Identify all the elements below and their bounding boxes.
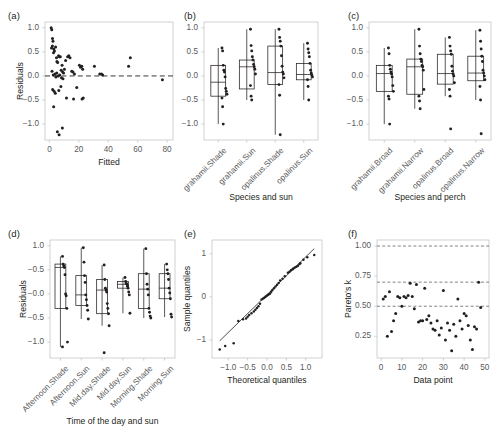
data-point [442, 289, 445, 292]
data-point [471, 348, 474, 351]
x-axis-title: Data point [343, 375, 503, 385]
data-point [454, 335, 457, 338]
data-point [465, 314, 468, 317]
data-point [446, 322, 449, 325]
data-point [448, 329, 451, 332]
multi-panel-figure: (a)1.00.50.0−0.5−1.0020406080FittedResid… [0, 0, 503, 438]
data-point [423, 287, 426, 290]
y-tick-label: 0.50 [335, 301, 371, 310]
data-point [458, 319, 461, 322]
panel-f-canvas [0, 0, 503, 438]
x-tick-label: 50 [469, 363, 501, 372]
data-point [475, 328, 478, 331]
data-point [429, 322, 432, 325]
data-point [469, 338, 472, 341]
data-point [425, 318, 428, 321]
data-point [473, 325, 476, 328]
data-point [411, 295, 414, 298]
data-point [407, 294, 410, 297]
data-point [386, 335, 389, 338]
data-point [438, 334, 441, 337]
data-point [427, 314, 430, 317]
data-point [450, 349, 453, 352]
data-point [388, 290, 391, 293]
y-tick-label: 0.75 [335, 271, 371, 280]
data-point [384, 295, 387, 298]
data-point [440, 326, 443, 329]
data-point [467, 324, 470, 327]
y-tick-label: 0.25 [335, 331, 371, 340]
data-point [463, 312, 466, 315]
data-point [390, 330, 393, 333]
data-point [456, 298, 459, 301]
data-point [477, 281, 480, 284]
data-point [436, 319, 439, 322]
data-point [421, 319, 424, 322]
data-point [444, 338, 447, 341]
data-point [479, 306, 482, 309]
data-point [434, 329, 437, 332]
data-point [392, 319, 395, 322]
data-point [415, 283, 418, 286]
data-point [382, 298, 385, 301]
y-axis-title: Pareto's k [343, 249, 353, 349]
data-point [394, 312, 397, 315]
data-point [452, 323, 455, 326]
panel-label-f: (f) [348, 228, 357, 239]
data-point [413, 307, 416, 310]
panel-f [0, 0, 503, 438]
data-point [400, 305, 403, 308]
plot-frame-f [377, 240, 489, 358]
y-tick-label: 1.00 [335, 241, 371, 250]
data-point [405, 296, 408, 299]
data-point [461, 328, 464, 331]
data-point [398, 296, 401, 299]
data-point [409, 282, 412, 285]
